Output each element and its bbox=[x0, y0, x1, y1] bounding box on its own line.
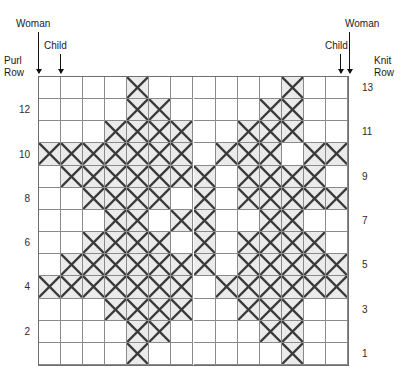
cell-x-icon bbox=[260, 232, 281, 253]
cell-x-icon bbox=[282, 210, 303, 231]
cell-x-icon bbox=[149, 254, 170, 275]
chart-cell-empty bbox=[194, 99, 216, 121]
chart-cell-empty bbox=[149, 77, 171, 99]
cell-x-icon bbox=[105, 188, 126, 209]
chart-cell-empty bbox=[304, 121, 326, 143]
chart-cell-empty bbox=[326, 232, 348, 254]
chart-cell-filled bbox=[282, 166, 304, 188]
chart-cell-filled bbox=[282, 210, 304, 232]
knit-row-caption: Knit Row bbox=[374, 55, 394, 78]
chart-cell-filled bbox=[260, 232, 282, 254]
chart-cell-empty bbox=[39, 188, 61, 210]
cell-x-icon bbox=[127, 321, 148, 342]
chart-cell-empty bbox=[171, 232, 193, 254]
left-child-label: Child bbox=[44, 40, 67, 52]
cell-x-icon bbox=[61, 166, 82, 187]
left-woman-label: Woman bbox=[16, 18, 50, 30]
chart-cell-empty bbox=[326, 321, 348, 343]
chart-cell-filled bbox=[238, 166, 260, 188]
chart-cell-filled bbox=[216, 276, 238, 298]
chart-cell-empty bbox=[260, 77, 282, 99]
cell-x-icon bbox=[149, 276, 170, 297]
chart-cell-filled bbox=[127, 299, 149, 321]
cell-x-icon bbox=[105, 232, 126, 253]
cell-x-icon bbox=[238, 232, 259, 253]
chart-cell-filled bbox=[105, 232, 127, 254]
cell-x-icon bbox=[171, 299, 192, 320]
chart-cell-filled bbox=[127, 254, 149, 276]
chart-cell-empty bbox=[39, 299, 61, 321]
cell-x-icon bbox=[171, 166, 192, 187]
chart-cell-filled bbox=[83, 166, 105, 188]
cell-x-icon bbox=[238, 188, 259, 209]
knit-row-line2: Row bbox=[374, 67, 394, 79]
chart-cell-filled bbox=[61, 276, 83, 298]
purl-row-line2: Row bbox=[4, 67, 24, 79]
cell-x-icon bbox=[260, 121, 281, 142]
chart-cell-filled bbox=[194, 254, 216, 276]
cell-x-icon bbox=[149, 232, 170, 253]
chart-cell-filled bbox=[149, 143, 171, 165]
cell-x-icon bbox=[171, 254, 192, 275]
chart-cell-empty bbox=[216, 99, 238, 121]
cell-x-icon bbox=[127, 188, 148, 209]
row-number-8: 8 bbox=[8, 194, 30, 204]
cell-x-icon bbox=[105, 143, 126, 164]
chart-cell-empty bbox=[304, 99, 326, 121]
chart-cell-filled bbox=[260, 276, 282, 298]
chart-cell-empty bbox=[260, 343, 282, 365]
chart-cell-filled bbox=[282, 343, 304, 365]
chart-cell-filled bbox=[127, 188, 149, 210]
chart-cell-filled bbox=[282, 77, 304, 99]
knit-row-line1: Knit bbox=[374, 55, 394, 67]
cell-x-icon bbox=[216, 143, 237, 164]
chart-cell-filled bbox=[171, 299, 193, 321]
cell-x-icon bbox=[238, 166, 259, 187]
chart-cell-empty bbox=[83, 299, 105, 321]
row-number-9: 9 bbox=[362, 172, 388, 182]
chart-cell-empty bbox=[61, 77, 83, 99]
chart-cell-empty bbox=[304, 77, 326, 99]
chart-cell-empty bbox=[105, 343, 127, 365]
cell-x-icon bbox=[105, 299, 126, 320]
chart-cell-empty bbox=[149, 210, 171, 232]
chart-cell-filled bbox=[238, 276, 260, 298]
cell-x-icon bbox=[194, 254, 215, 275]
cell-x-icon bbox=[127, 232, 148, 253]
chart-cell-empty bbox=[238, 321, 260, 343]
row-number-5: 5 bbox=[362, 260, 388, 270]
cell-x-icon bbox=[171, 276, 192, 297]
chart-cell-filled bbox=[194, 188, 216, 210]
chart-cell-filled bbox=[83, 143, 105, 165]
chart-cell-filled bbox=[171, 254, 193, 276]
chart-cell-filled bbox=[149, 276, 171, 298]
chart-cell-filled bbox=[149, 99, 171, 121]
chart-cell-filled bbox=[260, 143, 282, 165]
cell-x-icon bbox=[304, 254, 325, 275]
cell-x-icon bbox=[83, 188, 104, 209]
chart-cell-empty bbox=[83, 99, 105, 121]
chart-cell-filled bbox=[171, 143, 193, 165]
cell-x-icon bbox=[260, 321, 281, 342]
chart-cell-empty bbox=[39, 77, 61, 99]
cell-x-icon bbox=[260, 166, 281, 187]
chart-cell-empty bbox=[326, 99, 348, 121]
chart-cell-empty bbox=[61, 321, 83, 343]
chart-cell-empty bbox=[216, 210, 238, 232]
cell-x-icon bbox=[127, 121, 148, 142]
cell-x-icon bbox=[282, 254, 303, 275]
chart-cell-filled bbox=[149, 121, 171, 143]
purl-row-caption: Purl Row bbox=[4, 55, 24, 78]
chart-cell-empty bbox=[61, 121, 83, 143]
cell-x-icon bbox=[61, 254, 82, 275]
chart-cell-filled bbox=[127, 99, 149, 121]
chart-cell-empty bbox=[304, 321, 326, 343]
chart-cell-empty bbox=[171, 188, 193, 210]
cell-x-icon bbox=[194, 210, 215, 231]
chart-cell-empty bbox=[171, 321, 193, 343]
chart-cell-empty bbox=[39, 254, 61, 276]
chart-cell-filled bbox=[105, 166, 127, 188]
cell-x-icon bbox=[260, 99, 281, 120]
knitting-chart-grid bbox=[38, 76, 349, 366]
chart-cell-empty bbox=[194, 121, 216, 143]
